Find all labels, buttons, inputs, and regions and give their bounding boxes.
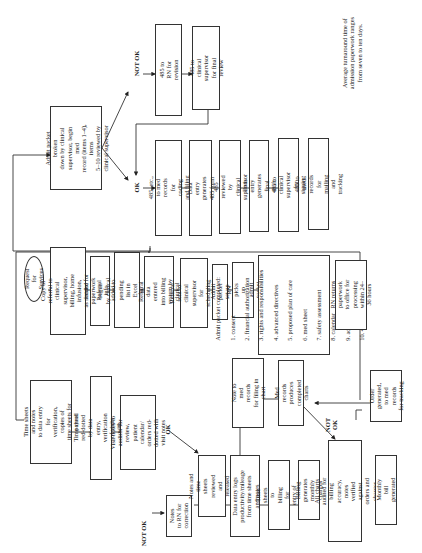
billing-step-5-text: All charts audited for billing accuracy,… [313, 475, 378, 507]
ok-step-1-text: 485, etc., to med records for coding and… [147, 176, 190, 201]
audit-not-ok-label: NOT OK [324, 418, 338, 432]
billing-step-1: Notes and time sheets reviewed and relea… [198, 455, 226, 517]
admit-breakdown-box: Admit packet broken down by clinical sup… [50, 106, 102, 190]
records-step-1: Note to med records for filing in chart [232, 358, 264, 428]
billing-step-6-text: Monthly bill generated [375, 478, 397, 502]
rn-returns-text: RN returns paperwork to office for proce… [329, 280, 372, 310]
ok-step-3: 485 reviewed by clinical supervisor [219, 140, 241, 234]
admit-item: 1. consent [229, 315, 236, 341]
not-ok-step-1-text: 485 to RN for revision [158, 57, 180, 82]
referral-step-3: Referral info added to pending list in E… [114, 252, 140, 328]
admit-packet-box: Admit packet completed: 1. consent 2. fi… [258, 255, 330, 355]
records-step-2-text: Med records produces completed charts [273, 380, 309, 406]
admit-item: 6. med sheet [301, 309, 308, 341]
ok-step-6-text: 485 to med records for mailing and track… [293, 174, 343, 195]
admit-item: 3. rights and responsibilities [258, 269, 265, 340]
ok-step-1: 485, etc., to med records for coding and… [155, 140, 182, 236]
notes-to-rn-text: Notes to RN for correction [168, 503, 190, 529]
correction-not-ok-label: NOT OK [140, 521, 147, 547]
admit-item: 2. financial authorization [243, 277, 250, 340]
rn-returns-box: RN returns paperwork to office for proce… [335, 260, 367, 330]
records-step-1-text: Note to med records for filing in chart [230, 378, 266, 408]
referral-step-5: Referral sent to clinical supervisor for… [180, 258, 208, 328]
admit-packet-title: Admit packet completed: [214, 277, 221, 341]
not-ok-step-2: 485 to clinical supervisor for final rev… [192, 26, 220, 110]
decision-not-ok-label: NOT OK [133, 51, 140, 77]
turnaround-note: Average turnaround time of admission pap… [341, 13, 363, 93]
billing-step-5: All charts audited for billing accuracy,… [328, 440, 362, 542]
not-ok-step-2-text: 485 to clinical supervisor for final rev… [188, 55, 224, 81]
admit-item: 4. advanced directives [272, 284, 279, 340]
billing-step-3: Time sheets to billing for entry of char… [268, 460, 290, 530]
billing-step-6: Monthly bill generated [375, 455, 397, 525]
ok-step-2: Data entry generates 485 form [189, 140, 212, 236]
order-generated-text: Order generated, to med records for trac… [368, 381, 404, 411]
visit-step-1: Time sheets and notes to data entry for … [30, 380, 72, 464]
admit-item: 5. proposed plan of care [287, 280, 294, 341]
visit-step-3-text: Visit notes to auditor for review, patie… [109, 416, 167, 450]
ok-step-6: 485 to med records for mailing and track… [308, 138, 329, 230]
decision-ok-label: OK [133, 182, 140, 192]
visit-step-3: Visit notes to auditor for review, patie… [120, 395, 156, 470]
order-generated-box: Order generated, to med records for trac… [370, 370, 402, 422]
records-step-2: Med records produces completed charts [278, 360, 304, 426]
referral-step-1: Copy of referral to clinical supervisor,… [50, 247, 86, 335]
ok-step-4: Data entry generates final draft [249, 140, 269, 232]
notes-to-rn-box: Notes to RN for correction [166, 495, 192, 537]
admit-breakdown-text: Admit packet broken down by clinical sup… [44, 123, 109, 173]
not-ok-step-1: 485 to RN for revision [155, 24, 182, 116]
admit-item: 7. safety assessment [315, 290, 322, 341]
correction-ok-label: OK [164, 424, 171, 434]
ok-step-2-text: Data entry generates 485 form [186, 176, 215, 200]
